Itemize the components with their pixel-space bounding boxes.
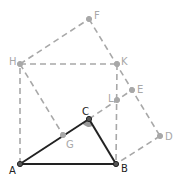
point-h — [17, 61, 22, 66]
side-BC — [89, 119, 116, 164]
point-k — [114, 61, 119, 66]
label-e: E — [137, 84, 143, 95]
label-k: K — [121, 56, 128, 67]
point-b — [113, 161, 118, 166]
dashed-segment-HG — [20, 64, 63, 135]
point-c — [86, 116, 91, 121]
point-labels: ABCDEFGHKL — [9, 10, 173, 176]
label-a: A — [9, 165, 16, 176]
label-b: B — [121, 163, 128, 174]
geometry-diagram: ABCDEFGHKL — [0, 0, 182, 185]
dashed-segment-DB — [116, 136, 160, 164]
point-g — [60, 132, 65, 137]
point-l — [114, 97, 119, 102]
dashed-segment-FD — [89, 19, 160, 136]
point-d — [157, 133, 162, 138]
label-l: L — [108, 93, 114, 104]
diagram-canvas: ABCDEFGHKL — [0, 0, 182, 185]
side-CA — [20, 119, 89, 164]
point-a — [17, 161, 22, 166]
label-c: C — [82, 106, 89, 117]
point-e — [129, 87, 134, 92]
dashed-segment-KB — [116, 64, 117, 164]
label-d: D — [165, 131, 173, 142]
label-g: G — [66, 139, 74, 150]
label-h: H — [9, 56, 17, 67]
dashed-segment-HF — [20, 19, 89, 64]
point-f — [86, 16, 91, 21]
label-f: F — [94, 10, 100, 21]
